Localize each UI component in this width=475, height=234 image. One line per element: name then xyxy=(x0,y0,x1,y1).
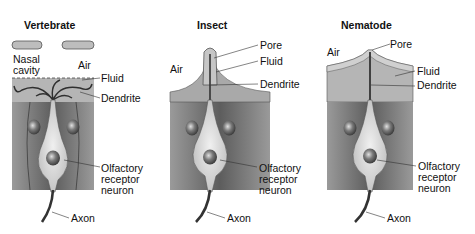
dendrite-label: Dendrite xyxy=(417,80,457,91)
axon-label: Axon xyxy=(387,213,411,224)
fluid-label: Fluid xyxy=(260,56,283,67)
dendrite-label: Dendrite xyxy=(101,93,141,104)
nasal-wall-right xyxy=(62,41,94,49)
dendrite-label: Dendrite xyxy=(260,79,300,90)
air-label: Air xyxy=(327,47,340,58)
cuticle xyxy=(170,50,270,102)
axon-label: Axon xyxy=(71,213,95,224)
nasal-cavity-label-2: cavity xyxy=(13,65,40,76)
neuron-label-3: neuron xyxy=(418,183,451,194)
neuron-label-3: neuron xyxy=(259,185,292,196)
vertebrate-title: Vertebrate xyxy=(24,19,75,31)
fluid-label: Fluid xyxy=(101,73,124,84)
nematode-title: Nematode xyxy=(341,19,392,31)
nucleus xyxy=(46,151,60,166)
pore-label: Pore xyxy=(260,40,282,51)
insect-panel xyxy=(170,45,270,222)
air-label: Air xyxy=(78,60,91,71)
pore-label: Pore xyxy=(390,39,412,50)
nematode-panel xyxy=(327,44,416,222)
neuron-label-3: neuron xyxy=(101,185,134,196)
olfactory-diagram xyxy=(0,0,475,234)
axon-label: Axon xyxy=(227,213,251,224)
air-label: Air xyxy=(170,64,183,75)
insect-title: Insect xyxy=(197,19,227,31)
axon xyxy=(42,190,53,222)
fluid-label: Fluid xyxy=(417,66,440,77)
nasal-wall-left xyxy=(12,41,42,49)
